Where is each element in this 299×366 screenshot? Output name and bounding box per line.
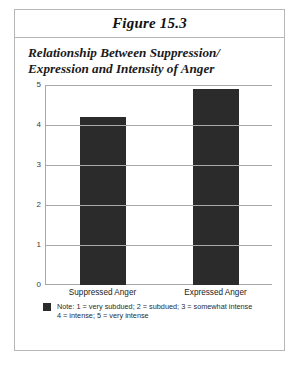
- gridline: [45, 205, 272, 206]
- gridline: [45, 165, 272, 166]
- y-tick-label: 3: [37, 161, 41, 169]
- x-tick-label: Expressed Anger: [184, 287, 246, 299]
- y-tick-label: 1: [37, 241, 41, 249]
- gridline: [45, 245, 272, 246]
- bars-layer: [46, 85, 272, 285]
- bar-slot: [159, 85, 272, 285]
- figure-title-line-1: Relationship Between Suppression/: [28, 45, 272, 61]
- plot-area: [45, 85, 272, 285]
- figure-title-line-2: Expression and Intensity of Anger: [28, 61, 272, 77]
- bar: [193, 89, 239, 285]
- x-axis: Suppressed AngerExpressed Anger: [46, 287, 272, 301]
- y-tick-label: 5: [37, 81, 41, 89]
- gridline: [45, 125, 272, 126]
- legend-color-swatch: [43, 303, 51, 311]
- gridline: [45, 85, 272, 86]
- y-axis: 012345: [25, 85, 41, 285]
- bar-chart: 012345 Suppressed AngerExpressed Anger: [25, 85, 274, 297]
- figure-container: Figure 15.3 Relationship Between Suppres…: [14, 9, 285, 351]
- legend-note-line-2: 4 = intense; 5 = very intense: [57, 311, 252, 320]
- y-tick-label: 2: [37, 201, 41, 209]
- y-tick-label: 4: [37, 121, 41, 129]
- legend-note-line-1: Note: 1 = very subdued; 2 = subdued; 3 =…: [57, 302, 252, 311]
- y-tick-label: 0: [37, 281, 41, 289]
- figure-title: Relationship Between Suppression/ Expres…: [15, 38, 284, 79]
- figure-number-label: Figure 15.3: [112, 15, 187, 32]
- figure-header: Figure 15.3: [15, 10, 284, 38]
- legend-note: Note: 1 = very subdued; 2 = subdued; 3 =…: [57, 302, 252, 320]
- bar: [80, 117, 126, 285]
- chart-legend: Note: 1 = very subdued; 2 = subdued; 3 =…: [43, 302, 284, 320]
- bar-slot: [46, 85, 159, 285]
- x-tick-label: Suppressed Anger: [69, 287, 136, 299]
